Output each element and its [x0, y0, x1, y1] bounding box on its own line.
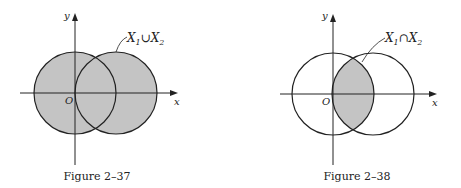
y-axis-arrow-icon [330, 14, 336, 22]
set-label: X1∪X2 [126, 31, 164, 47]
figure-2-37: x y O X1∪X2 Figure 2–37 [20, 10, 180, 183]
x-axis-label: x [432, 97, 438, 108]
leader-line [116, 37, 127, 52]
y-axis-label: y [321, 10, 328, 21]
figure-caption: Figure 2–38 [323, 170, 390, 183]
y-axis-label: y [63, 10, 70, 21]
set-label: X1∩X2 [384, 31, 422, 47]
figure-2-38: x y O X1∩X2 Figure 2–38 [280, 10, 438, 183]
origin-label: O [65, 95, 73, 106]
y-axis-arrow-icon [72, 13, 78, 21]
origin-label: O [322, 96, 330, 107]
diagram-canvas: x y O X1∪X2 Figure 2–37 x y O X1∩X2 Figu… [0, 0, 461, 188]
figure-caption: Figure 2–37 [63, 170, 130, 183]
leader-line [362, 38, 385, 62]
x-axis-label: x [174, 96, 180, 107]
